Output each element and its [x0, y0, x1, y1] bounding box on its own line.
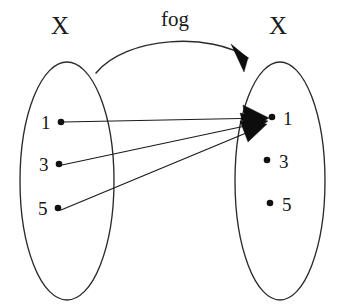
domain-set-title: X	[51, 12, 69, 39]
domain-element-dot-5	[55, 205, 62, 212]
codomain-elements-group: 135	[264, 108, 293, 215]
domain-element-label-1: 1	[41, 112, 51, 133]
codomain-element-label-5: 5	[282, 194, 292, 215]
set-mapping-diagram: fog X X 135 135	[0, 0, 338, 308]
codomain-element-dot-1	[269, 114, 276, 121]
mapping-arrowhead-icon	[231, 44, 248, 72]
codomain-element-dot-5	[267, 200, 274, 207]
domain-element-dot-1	[58, 119, 65, 126]
mapping-label: fog	[161, 7, 189, 31]
edge-1-to-1	[63, 118, 266, 122]
edge-5-to-1	[61, 126, 263, 210]
domain-element-dot-3	[56, 161, 63, 168]
codomain-set-outline	[235, 62, 325, 300]
codomain-set-title: X	[269, 12, 287, 39]
domain-set-outline	[20, 62, 114, 300]
codomain-element-label-3: 3	[279, 151, 289, 172]
codomain-element-label-1: 1	[283, 108, 293, 129]
domain-elements-group: 135	[38, 112, 64, 219]
domain-element-label-3: 3	[39, 154, 49, 175]
domain-element-label-5: 5	[38, 198, 48, 219]
edge-3-to-1	[62, 122, 264, 165]
figure-canvas: fog X X 135 135	[0, 0, 338, 308]
edge-5-to-1-arrowhead-icon	[240, 121, 267, 142]
mapping-edges-group	[61, 105, 269, 210]
mapping-arc	[96, 41, 248, 73]
codomain-element-dot-3	[264, 157, 271, 164]
